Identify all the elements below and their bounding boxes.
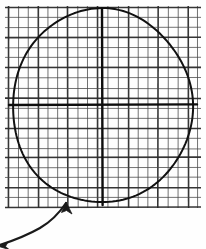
graph-paper-figure: Circle on graph paper with axes and curv…: [0, 0, 206, 249]
horizontal-axis-line: [9, 104, 197, 105]
vertical-axis-line: [102, 9, 103, 205]
figure-root: Circle on graph paper with axes and curv…: [0, 0, 206, 249]
